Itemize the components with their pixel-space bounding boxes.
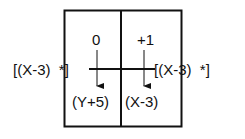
- top-left-value: 0: [92, 32, 100, 47]
- bottom-right-expression: (X-3): [125, 94, 158, 109]
- right-output-label: [(X-3) *]: [154, 62, 210, 77]
- top-right-value: +1: [137, 32, 154, 47]
- bottom-left-expression: (Y+5): [72, 94, 109, 109]
- left-input-label: [(X-3) *]: [13, 62, 69, 77]
